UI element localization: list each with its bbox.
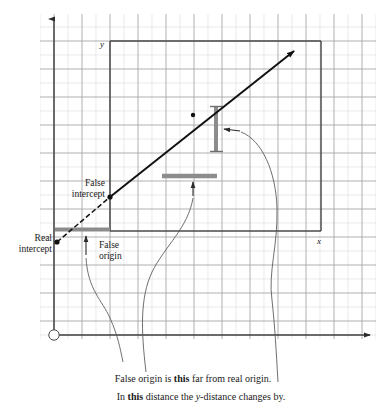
caption2-part1: In <box>117 391 128 402</box>
false-origin-label-line2: origin <box>99 251 122 261</box>
caption2-part5: -distance changes by. <box>200 391 285 402</box>
real-intercept-label-line2: intercept <box>19 244 53 254</box>
x-axis-label: x <box>316 236 321 246</box>
callout-curve-run-bar <box>142 198 193 372</box>
figure-container: y x False intercept Real intercept False… <box>0 0 386 415</box>
callout-arrow-rise-bar <box>224 129 240 131</box>
real-intercept-label-line1: Real <box>35 233 53 243</box>
data-line-group <box>54 51 294 245</box>
caption-false-origin-distance: False origin is this far from real origi… <box>115 373 272 384</box>
caption2-part3: distance the <box>143 391 195 402</box>
real-intercept-point <box>54 239 59 244</box>
real-origin-circle <box>49 330 59 340</box>
caption1-part1: False origin is <box>115 373 174 384</box>
false-intercept-point <box>107 194 112 199</box>
caption-y-distance-change: In this distance the y-distance changes … <box>117 391 286 402</box>
y-axis-label: y <box>99 39 104 49</box>
callout-curve-rise-bar <box>241 132 278 382</box>
false-origin-diagram: y x False intercept Real intercept False… <box>0 0 386 415</box>
annotation-false-origin: False origin <box>99 240 122 261</box>
annotation-real-intercept: Real intercept <box>19 233 53 254</box>
false-origin-label-line1: False <box>99 240 119 250</box>
caption1-part2-bold: this <box>174 373 190 384</box>
false-intercept-label-line1: False <box>85 178 105 188</box>
caption1-part3: far from real origin. <box>189 373 271 384</box>
extrapolated-line-dashed <box>57 197 110 242</box>
false-intercept-label-line2: intercept <box>72 189 106 199</box>
callout-curve-false-origin <box>86 258 123 362</box>
caption2-part2-bold: this <box>128 391 144 402</box>
line-midpoint-marker <box>191 113 195 117</box>
